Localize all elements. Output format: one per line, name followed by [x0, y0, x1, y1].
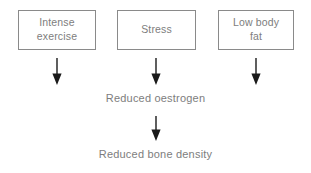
factor-box-stress-label: Stress — [141, 23, 172, 37]
factor-box-stress: Stress — [117, 10, 196, 50]
arrow-down-icon-exercise-to-oestrogen — [48, 58, 66, 86]
factor-box-low-body-fat: Low body fat — [218, 10, 294, 50]
outcome-reduced-oestrogen: Reduced oestrogen — [0, 92, 311, 104]
arrow-down-icon-stress-to-oestrogen — [147, 58, 165, 86]
factor-box-low-body-fat-label: Low body fat — [233, 16, 279, 43]
flowchart-canvas: Intense exercise Stress Low body fat Red… — [0, 0, 311, 173]
arrow-down-icon-fat-to-oestrogen — [247, 58, 265, 86]
arrow-down-icon-oestrogen-to-density — [147, 116, 165, 142]
outcome-reduced-bone-density: Reduced bone density — [0, 148, 311, 160]
factor-box-intense-exercise-label: Intense exercise — [37, 16, 77, 43]
factor-box-intense-exercise: Intense exercise — [18, 10, 96, 50]
